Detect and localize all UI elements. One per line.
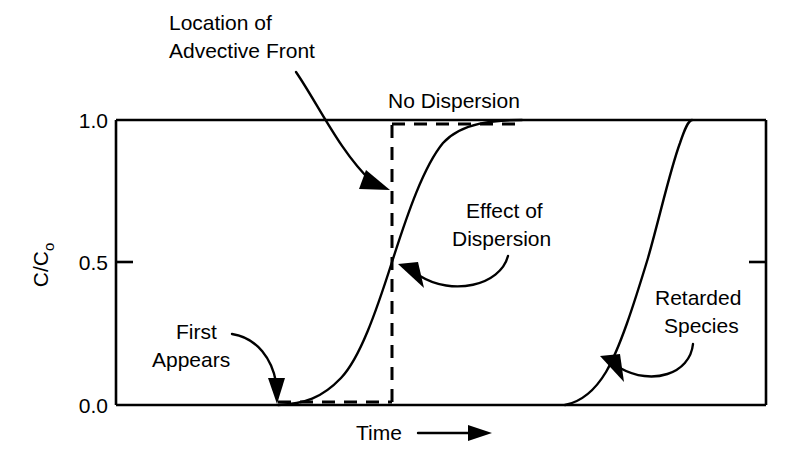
y-tick-label-0.0: 0.0 [79,394,108,417]
annotation-retarded-species: Retarded Species [600,286,741,382]
advective-front-leader [296,72,372,182]
retarded-species-curve [565,120,692,405]
first-appears-label-line1: First [176,320,217,343]
effect-dispersion-label-line1: Effect of [466,199,543,222]
effect-dispersion-label-line2: Dispersion [452,227,551,250]
y-axis-title-subscript: o [40,243,57,251]
x-axis-arrow-head [468,425,492,441]
figure-root: 1.0 0.5 0.0 C/Co Time [0,0,802,457]
annotation-effect-of-dispersion: Effect of Dispersion [398,199,551,288]
retarded-species-label-line1: Retarded [655,286,741,309]
advective-front-label-line1: Location of [169,11,272,34]
effect-dispersion-leader [420,256,508,286]
first-appears-arrow-head [268,378,285,404]
breakthrough-curve-chart: 1.0 0.5 0.0 C/Co Time [0,0,802,457]
y-tick-label-1.0: 1.0 [79,109,108,132]
x-axis-title-text: Time [356,421,402,444]
y-axis-title-text: C/Co [29,243,57,288]
series-retarded-species [565,120,692,405]
y-axis-title: C/Co [29,243,57,288]
no-dispersion-label: No Dispersion [388,89,520,112]
y-tick-label-0.5: 0.5 [79,251,108,274]
series-no-dispersion [278,124,522,402]
advective-front-label-line2: Advective Front [169,39,315,62]
first-appears-leader [232,334,276,382]
retarded-species-label-line2: Species [664,314,739,337]
retarded-species-leader [620,344,693,376]
y-axis-title-base: C/C [29,251,52,287]
series-effect-of-dispersion [278,120,522,405]
dispersion-curve [278,120,522,405]
first-appears-label-line2: Appears [152,348,230,371]
annotation-advective-front: Location of Advective Front [169,11,390,190]
x-axis-title: Time [356,421,492,444]
annotation-no-dispersion: No Dispersion [388,89,520,112]
annotation-first-appears: First Appears [152,320,285,404]
effect-dispersion-arrow-head [398,262,424,288]
y-tick-labels: 1.0 0.5 0.0 [79,109,108,417]
